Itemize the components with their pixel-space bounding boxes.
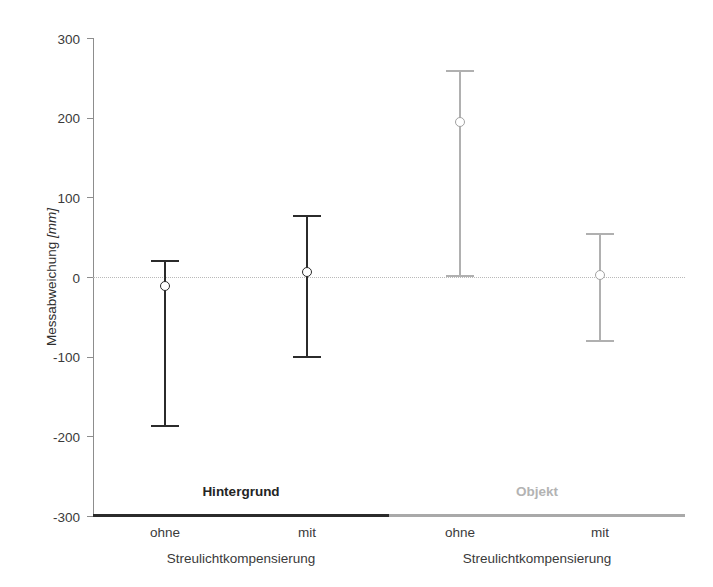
mean-marker	[455, 117, 465, 127]
y-tick-label: 0	[72, 270, 80, 285]
group-caption-objekt: Objekt	[516, 484, 558, 499]
mean-marker	[160, 281, 170, 291]
whisker-line	[306, 215, 308, 358]
y-tick-300: 300	[87, 38, 93, 39]
y-axis-unit-text: [mm]	[44, 208, 59, 238]
x-axis-line-hintergrund	[93, 514, 389, 517]
group-caption-hintergrund: Hintergrund	[202, 484, 279, 499]
whisker-cap-upper	[586, 233, 614, 235]
whisker-cap-upper	[151, 260, 179, 262]
mean-marker	[302, 267, 312, 277]
mean-marker	[595, 270, 605, 280]
y-tick-label: -200	[53, 429, 80, 444]
y-tick-label: -300	[53, 509, 80, 524]
x-tick-label-2: ohne	[445, 525, 475, 540]
y-tick-label: 300	[57, 31, 80, 46]
whisker-cap-lower	[151, 425, 179, 427]
y-tick-label: 200	[57, 111, 80, 126]
whisker-cap-upper	[446, 70, 474, 72]
x-axis-group-label-0: Streulichtkompensierung	[167, 551, 316, 566]
x-tick-label-3: mit	[591, 525, 609, 540]
x-tick-label-0: ohne	[150, 525, 180, 540]
y-tick--200: -200	[87, 436, 93, 437]
y-tick-200: 200	[87, 118, 93, 119]
whisker-line	[599, 233, 601, 342]
y-tick--300: -300	[87, 516, 93, 517]
y-axis-title-text: Messabweichung	[44, 242, 59, 346]
plot-area: 3002001000-100-200-300 HintergrundObjekt	[93, 38, 685, 516]
whisker-cap-lower	[446, 275, 474, 277]
x-tick-label-1: mit	[298, 525, 316, 540]
y-tick-label: 100	[57, 190, 80, 205]
x-axis-line-objekt	[389, 514, 685, 517]
y-tick-100: 100	[87, 197, 93, 198]
whisker-cap-lower	[586, 340, 614, 342]
whisker-line	[459, 70, 461, 277]
figure-canvas: Messabweichung [mm] 3002001000-100-200-3…	[0, 0, 713, 587]
whisker-cap-lower	[293, 356, 321, 358]
whisker-cap-upper	[293, 215, 321, 217]
x-axis-group-label-1: Streulichtkompensierung	[463, 551, 612, 566]
y-tick-label: -100	[53, 350, 80, 365]
y-tick--100: -100	[87, 357, 93, 358]
